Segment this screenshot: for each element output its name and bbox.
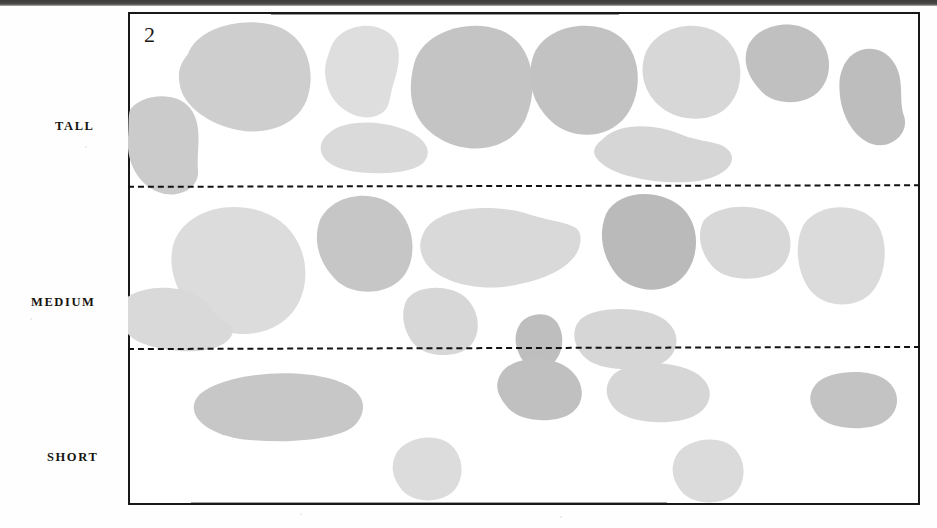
blob-shape: [594, 126, 732, 182]
blob-group-tall: [128, 22, 905, 194]
blob-group-medium: [128, 194, 885, 369]
blob-shape: [317, 196, 413, 292]
blob-shape: [321, 123, 428, 174]
blob-shape: [839, 49, 905, 145]
figure-page: TALL MEDIUM SHORT: [0, 0, 937, 528]
paper-speck: [85, 146, 87, 148]
blob-shape: [643, 26, 741, 119]
blob-shape: [393, 438, 462, 501]
blob-shape: [497, 359, 582, 421]
paper-speck: [300, 513, 302, 515]
plot-frame: 2: [128, 12, 920, 505]
scan-edge-highlight: [0, 6, 937, 9]
blob-shape: [128, 96, 199, 194]
blob-shape: [411, 26, 533, 149]
figure-number: 2: [144, 24, 155, 46]
blob-shape: [607, 363, 710, 422]
blob-shape: [420, 208, 580, 288]
blob-group-short: [194, 359, 897, 503]
blob-shape: [673, 440, 744, 503]
blob-shape: [179, 22, 311, 131]
category-label-short: SHORT: [47, 450, 98, 465]
blob-shape: [574, 309, 676, 369]
blob-shape: [798, 207, 885, 304]
blob-shape: [530, 26, 638, 135]
blob-shape: [746, 24, 829, 102]
blob-shape: [403, 288, 478, 355]
category-label-medium: MEDIUM: [31, 295, 95, 310]
blob-shape: [602, 194, 696, 290]
blob-shape: [810, 372, 897, 428]
category-label-tall: TALL: [55, 119, 95, 134]
blob-shape: [194, 373, 363, 441]
paper-speck: [30, 318, 32, 320]
blob-shape: [325, 26, 399, 118]
paper-speck: [560, 516, 562, 518]
blob-layer: [128, 12, 920, 505]
blob-canvas: [128, 12, 920, 505]
blob-shape: [700, 207, 791, 279]
